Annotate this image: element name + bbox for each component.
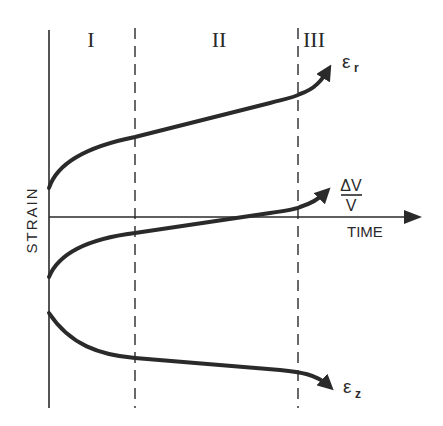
label-radial-strain: ε r bbox=[342, 51, 359, 75]
region-label-3: III bbox=[303, 27, 325, 52]
curve-volumetric-strain bbox=[49, 192, 326, 277]
curve-radial-strain bbox=[49, 70, 328, 188]
label-volumetric-strain: ΔV V bbox=[340, 177, 362, 214]
label-axial-strain: ε z bbox=[343, 376, 361, 401]
svg-text:V: V bbox=[346, 197, 357, 214]
curve-axial-strain bbox=[49, 313, 329, 386]
svg-text:r: r bbox=[354, 61, 359, 75]
y-axis-label: STRAIN bbox=[23, 186, 40, 253]
svg-text:ε: ε bbox=[343, 376, 352, 397]
x-axis-label: TIME bbox=[347, 223, 383, 240]
x-axis-arrow-icon bbox=[404, 210, 422, 224]
region-label-1: I bbox=[87, 27, 94, 52]
svg-text:ε: ε bbox=[342, 51, 351, 72]
svg-text:z: z bbox=[355, 387, 361, 401]
svg-text:ΔV: ΔV bbox=[340, 177, 362, 194]
region-label-2: II bbox=[212, 27, 227, 52]
creep-strain-diagram: I II III ε r ΔV V ε z TIME STRAIN bbox=[0, 0, 443, 426]
